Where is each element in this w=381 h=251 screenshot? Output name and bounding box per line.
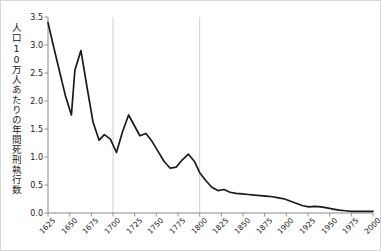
x-tick-label-1750: 1750 [146, 216, 166, 236]
x-tick-label-1725: 1725 [124, 216, 144, 236]
x-tick-label-1875: 1875 [254, 216, 274, 236]
figure-container: 人口10万人あたりの年間死刑執行数 0.00.51.01.52.02.53.03… [0, 0, 381, 251]
y-tick-label-3.0: 3.0 [30, 41, 43, 50]
y-axis-ticks [45, 17, 49, 213]
y-axis-title: 人口10万人あたりの年間死刑執行数 [5, 23, 21, 203]
figure-caption [105, 241, 355, 249]
x-tick-label-1650: 1650 [59, 216, 79, 236]
y-tick-label-0.0: 0.0 [30, 209, 43, 218]
y-tick-label-0.5: 0.5 [30, 181, 43, 190]
plot-area: 0.00.51.01.52.02.53.03.5 162516501675170… [48, 17, 373, 213]
line-chart-svg [48, 17, 373, 213]
y-tick-label-2.5: 2.5 [30, 69, 43, 78]
x-tick-label-2000: 2000 [362, 216, 381, 236]
x-tick-label-1850: 1850 [232, 216, 252, 236]
x-axis-ticks [48, 213, 373, 217]
x-tick-label-1800: 1800 [189, 216, 209, 236]
x-tick-label-1950: 1950 [319, 216, 339, 236]
x-tick-label-1775: 1775 [167, 216, 187, 236]
x-tick-label-1625: 1625 [37, 216, 57, 236]
x-tick-label-1925: 1925 [297, 216, 317, 236]
y-tick-label-1.0: 1.0 [30, 153, 43, 162]
x-tick-label-1975: 1975 [341, 216, 361, 236]
y-tick-label-2.0: 2.0 [30, 97, 43, 106]
y-tick-label-3.5: 3.5 [30, 13, 43, 22]
x-tick-label-1700: 1700 [102, 216, 122, 236]
x-tick-label-1825: 1825 [211, 216, 231, 236]
x-tick-label-1675: 1675 [81, 216, 101, 236]
series-line [48, 23, 373, 212]
data-series-group [48, 23, 373, 212]
vertical-gridlines [113, 17, 200, 213]
x-tick-label-1900: 1900 [276, 216, 296, 236]
y-tick-label-1.5: 1.5 [30, 125, 43, 134]
